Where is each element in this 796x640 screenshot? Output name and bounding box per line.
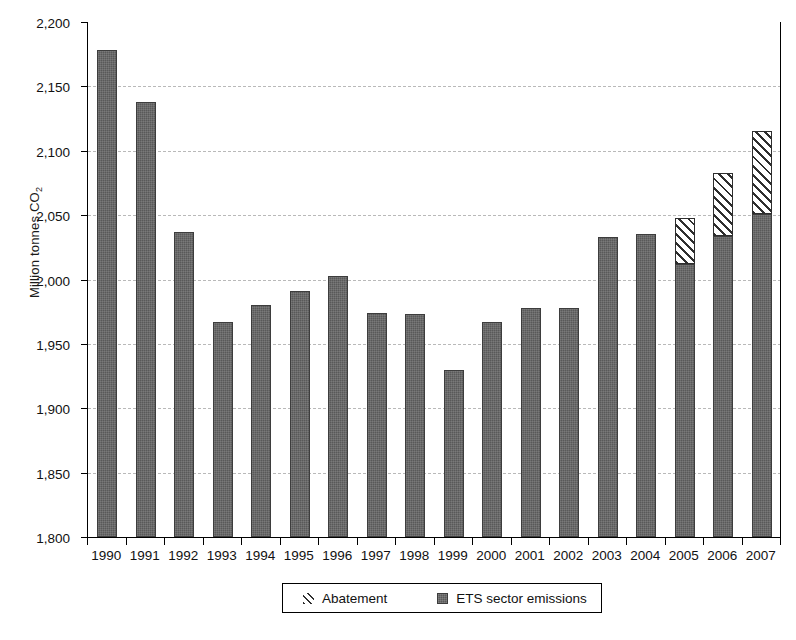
x-axis-tick: [549, 537, 550, 545]
bar-segment-ets-sector-emissions: [290, 291, 310, 537]
bar-segment-ets-sector-emissions: [174, 232, 194, 537]
bar-segment-abatement: [713, 173, 733, 236]
bar-segment-ets-sector-emissions: [752, 214, 772, 537]
plot-right-border: [780, 22, 781, 537]
x-axis-tick: [703, 537, 704, 545]
x-axis-tick-label: 1998: [395, 548, 434, 563]
y-axis-tick-label: 2,050: [36, 209, 70, 224]
bar-segment-ets-sector-emissions: [444, 370, 464, 537]
bar-segment-abatement: [675, 218, 695, 264]
x-axis-tick-label: 2003: [588, 548, 627, 563]
x-axis-tick: [126, 537, 127, 545]
bar-group: [174, 22, 194, 537]
bar-group: [405, 22, 425, 537]
x-axis-tick: [241, 537, 242, 545]
x-axis-tick-label: 2000: [472, 548, 511, 563]
bar-group: [213, 22, 233, 537]
bar-group: [290, 22, 310, 537]
bar-segment-ets-sector-emissions: [136, 102, 156, 537]
bar-segment-ets-sector-emissions: [559, 308, 579, 537]
x-axis-tick: [742, 537, 743, 545]
x-axis-tick-label: 2006: [703, 548, 742, 563]
y-axis-tick-label: 1,800: [36, 531, 70, 546]
bar-group: [251, 22, 271, 537]
x-axis-tick-label: 2005: [665, 548, 704, 563]
x-axis-tick-label: 1994: [241, 548, 280, 563]
y-axis-tick-label: 1,850: [36, 466, 70, 481]
x-axis-tick: [395, 537, 396, 545]
legend-label-abatement: Abatement: [322, 591, 387, 606]
y-axis-title-subscript: 2: [34, 187, 44, 192]
plot-area: 2,2002,1502,1002,0502,0001,9501,9001,850…: [87, 22, 781, 537]
x-axis-tick-label: 1991: [126, 548, 165, 563]
bar-segment-ets-sector-emissions: [521, 308, 541, 537]
bar-segment-ets-sector-emissions: [675, 264, 695, 537]
bar-segment-ets-sector-emissions: [636, 234, 656, 537]
y-axis-tick: 2,100: [81, 151, 88, 152]
bar-segment-ets-sector-emissions: [598, 237, 618, 537]
x-axis-tick: [164, 537, 165, 545]
y-axis-tick: 1,900: [81, 408, 88, 409]
bar-chart: Million tonnes CO2 2,2002,1502,1002,0502…: [0, 0, 796, 640]
x-axis-tick-label: 1999: [434, 548, 473, 563]
y-axis-tick-label: 1,950: [36, 337, 70, 352]
bar-group: [482, 22, 502, 537]
y-axis-tick-label: 2,200: [36, 16, 70, 31]
x-axis-tick: [318, 537, 319, 545]
y-axis-tick-label: 2,150: [36, 80, 70, 95]
bar-group: [559, 22, 579, 537]
x-axis-tick-label: 2007: [742, 548, 781, 563]
x-axis-tick: [472, 537, 473, 545]
y-axis-tick-label: 2,100: [36, 144, 70, 159]
bar-segment-ets-sector-emissions: [482, 322, 502, 537]
y-axis-tick-label: 2,000: [36, 273, 70, 288]
bar-group: [136, 22, 156, 537]
bar-group: [97, 22, 117, 537]
y-axis-tick: 2,000: [81, 280, 88, 281]
bar-segment-ets-sector-emissions: [213, 322, 233, 537]
x-axis-tick: [357, 537, 358, 545]
x-axis-tick-label: 1995: [280, 548, 319, 563]
x-axis-tick: [434, 537, 435, 545]
bar-segment-ets-sector-emissions: [251, 305, 271, 537]
x-axis-tick-label: 2001: [511, 548, 550, 563]
bar-group: [598, 22, 618, 537]
x-axis-tick-label: 1996: [318, 548, 357, 563]
legend-label-ets-sector-emissions: ETS sector emissions: [456, 591, 587, 606]
legend-swatch-abatement-icon: [303, 593, 314, 604]
legend-item-abatement: Abatement: [303, 591, 387, 606]
bar-segment-ets-sector-emissions: [97, 50, 117, 537]
y-axis-tick: 2,050: [81, 215, 88, 216]
x-axis-tick: [588, 537, 589, 545]
bar-group: [328, 22, 348, 537]
bar-segment-abatement: [752, 131, 772, 213]
legend-item-ets-sector-emissions: ETS sector emissions: [437, 591, 587, 606]
bar-group: [675, 22, 695, 537]
bar-segment-ets-sector-emissions: [405, 314, 425, 537]
bar-group: [444, 22, 464, 537]
y-axis-title: Million tonnes CO2: [27, 133, 42, 353]
x-axis-tick-label: 2004: [626, 548, 665, 563]
y-axis-tick: 1,850: [81, 473, 88, 474]
x-axis-tick-label: 1990: [87, 548, 126, 563]
bar-segment-ets-sector-emissions: [367, 313, 387, 537]
y-axis-tick: 2,200: [81, 22, 88, 23]
bar-group: [367, 22, 387, 537]
y-axis-tick: 1,950: [81, 344, 88, 345]
bar-group: [521, 22, 541, 537]
x-axis-tick-label: 1993: [203, 548, 242, 563]
bar-segment-ets-sector-emissions: [713, 236, 733, 537]
x-axis-tick: [780, 537, 781, 545]
x-axis-tick: [511, 537, 512, 545]
x-axis-tick: [665, 537, 666, 545]
bar-group: [636, 22, 656, 537]
x-axis-tick-label: 2002: [549, 548, 588, 563]
x-axis-tick: [280, 537, 281, 545]
bar-segment-ets-sector-emissions: [328, 276, 348, 537]
bar-group: [752, 22, 772, 537]
x-axis-tick: [87, 537, 88, 545]
x-axis-tick-label: 1997: [357, 548, 396, 563]
x-axis-tick: [626, 537, 627, 545]
y-axis-tick: 2,150: [81, 86, 88, 87]
x-axis-tick: [203, 537, 204, 545]
